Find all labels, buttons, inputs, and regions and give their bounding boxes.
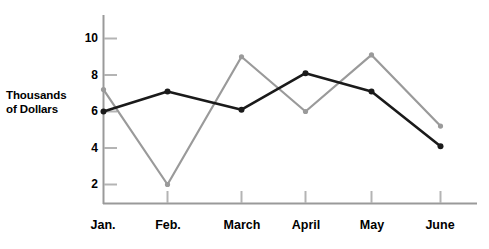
line-chart: Thousands of Dollars 10 8 6 4 2 Jan. Feb… <box>0 0 489 249</box>
data-point <box>165 88 171 94</box>
data-point <box>101 109 107 115</box>
axis-lines <box>103 15 477 204</box>
data-point <box>369 88 375 94</box>
data-point <box>369 52 374 57</box>
x-axis-ticks <box>168 191 441 203</box>
data-point <box>239 107 245 113</box>
plot-area <box>0 0 489 249</box>
data-point <box>165 182 170 187</box>
data-point <box>303 70 309 76</box>
data-point <box>438 143 444 149</box>
data-point <box>239 54 244 59</box>
data-point <box>303 109 308 114</box>
series-gray-markers <box>101 52 443 187</box>
data-point <box>101 87 106 92</box>
series-gray-line <box>104 55 441 185</box>
data-point <box>438 124 443 129</box>
